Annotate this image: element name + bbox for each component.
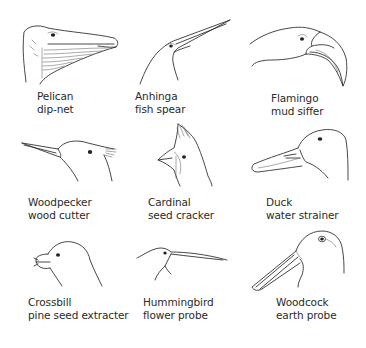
beak-function: pine seed extracter xyxy=(28,309,129,322)
beak-function: mud siffer xyxy=(271,105,323,118)
bird-label-woodcock: Woodcock earth probe xyxy=(276,296,337,322)
bird-name: Woodpecker xyxy=(28,196,92,209)
bird-label-cardinal: Cardinal seed cracker xyxy=(148,196,214,222)
bird-name: Crossbill xyxy=(28,296,129,309)
hummingbird-head-icon xyxy=(135,244,230,284)
woodpecker-head-icon xyxy=(20,135,120,185)
bird-name: Pelican xyxy=(37,90,74,103)
bird-label-anhinga: Anhinga fish spear xyxy=(135,90,185,116)
bird-label-hummingbird: Hummingbird flower probe xyxy=(143,296,214,322)
bird-name: Cardinal xyxy=(148,196,214,209)
bird-label-flamingo: Flamingo mud siffer xyxy=(271,92,323,118)
bird-label-crossbill: Crossbill pine seed extracter xyxy=(28,296,129,322)
beak-function: wood cutter xyxy=(28,209,92,222)
beak-function: water strainer xyxy=(266,209,339,222)
bird-name: Flamingo xyxy=(271,92,323,105)
beak-function: dip-net xyxy=(37,103,74,116)
flamingo-head-icon xyxy=(248,22,353,88)
bird-label-pelican: Pelican dip-net xyxy=(37,90,74,116)
bird-label-woodpecker: Woodpecker wood cutter xyxy=(28,196,92,222)
crossbill-head-icon xyxy=(32,240,102,290)
beak-function: seed cracker xyxy=(148,209,214,222)
duck-head-icon xyxy=(248,128,353,183)
bird-name: Woodcock xyxy=(276,296,337,309)
beak-function: fish spear xyxy=(135,103,185,116)
bird-name: Hummingbird xyxy=(143,296,214,309)
bird-label-duck: Duck water strainer xyxy=(266,196,339,222)
cardinal-head-icon xyxy=(150,122,215,188)
beak-function: flower probe xyxy=(143,309,214,322)
woodcock-head-icon xyxy=(250,229,350,294)
anhinga-head-icon xyxy=(138,18,233,86)
bird-name: Anhinga xyxy=(135,90,185,103)
pelican-head-icon xyxy=(18,20,123,85)
bird-name: Duck xyxy=(266,196,339,209)
beak-function: earth probe xyxy=(276,309,337,322)
